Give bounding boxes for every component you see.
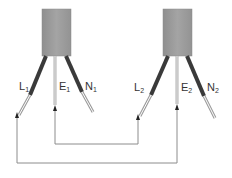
label-e1: E1 [59,80,70,93]
label-n2: N2 [207,81,219,94]
arrowhead-icon [53,105,57,111]
arrowhead-icon [175,104,179,110]
connection-l1-e2 [15,104,179,163]
device-1: L1 E1 N1 [19,9,97,115]
label-e2: E2 [181,81,192,94]
connection-e1-l2 [53,105,140,144]
label-l1: L1 [19,80,29,93]
label-l2: L2 [134,81,144,94]
device-2-box [163,9,192,56]
device-2: L2 E2 N2 [134,9,219,118]
wire-l2 [140,56,168,116]
label-n1: N1 [85,80,97,93]
wiring-diagram: L1 E1 N1 L2 E [0,0,232,178]
arrowhead-icon [15,112,19,118]
device-1-box [42,9,71,56]
